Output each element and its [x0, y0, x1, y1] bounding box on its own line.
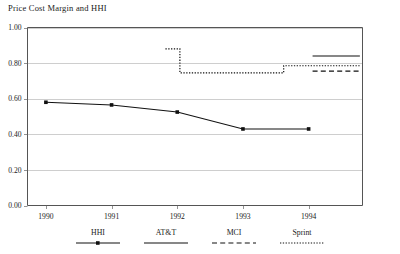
data-point-marker [175, 110, 179, 114]
x-axis-tick-label: 1991 [104, 212, 119, 221]
x-axis-tick-label: 1990 [38, 212, 53, 221]
legend-label: HHI [91, 228, 105, 238]
y-axis-tick-label: 0.40 [8, 130, 21, 139]
legend-item-mci[interactable]: MCI [208, 228, 260, 246]
legend-label: MCI [227, 228, 242, 238]
legend-label: Sprint [292, 228, 311, 238]
legend-label: AT&T [156, 228, 176, 238]
legend-item-at-t[interactable]: AT&T [140, 228, 192, 246]
series-line-hhi [46, 102, 309, 129]
y-axis-tick-label: 0.20 [8, 166, 21, 175]
legend-swatch-solid [143, 240, 189, 246]
y-axis-tick-label: 0.60 [8, 94, 21, 103]
series-line-sprint [165, 49, 359, 73]
series-group [44, 49, 360, 131]
chart-legend: HHIAT&TMCISprint [0, 228, 400, 246]
x-axis-tick-label: 1994 [301, 212, 316, 221]
x-axis-tick-label: 1992 [170, 212, 185, 221]
legend-item-sprint[interactable]: Sprint [276, 228, 328, 246]
data-point-marker [307, 127, 311, 131]
data-point-marker [110, 103, 114, 107]
y-axis-tick-label: 0.00 [8, 201, 21, 210]
data-point-marker [44, 100, 48, 104]
legend-swatch-dotted [279, 240, 325, 246]
gridlines-group [28, 29, 363, 171]
x-axis-tick-label: 1993 [235, 212, 250, 221]
tick-labels-group: 0.000.200.400.600.801.001990199119921993… [8, 23, 316, 220]
data-point-marker [241, 127, 245, 131]
legend-swatch-solid-with-markers [75, 240, 121, 246]
tick-marks-group [24, 29, 310, 210]
legend-swatch-dashed [211, 240, 257, 246]
chart-svg: 0.000.200.400.600.801.001990199119921993… [0, 0, 400, 254]
chart-plot-area: 0.000.200.400.600.801.001990199119921993… [0, 0, 400, 254]
y-axis-tick-label: 0.80 [8, 59, 21, 68]
legend-item-hhi[interactable]: HHI [72, 228, 124, 246]
y-axis-tick-label: 1.00 [8, 23, 21, 32]
